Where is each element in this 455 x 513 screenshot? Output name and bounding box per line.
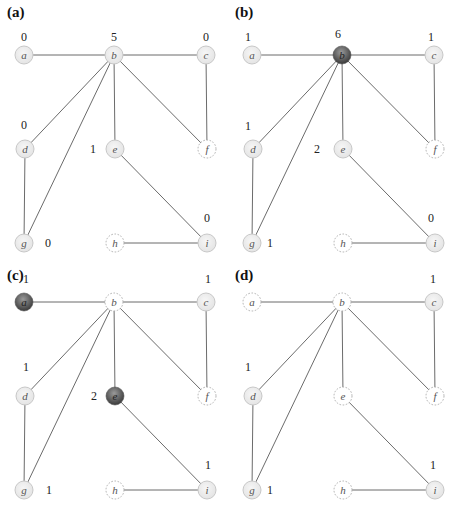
- count-e: 1: [90, 143, 96, 155]
- edge-e-i: [343, 149, 435, 243]
- edge-b-d: [253, 55, 342, 149]
- edge-b-f: [342, 55, 435, 149]
- count-i: 1: [205, 459, 211, 471]
- svg-text:e: e: [113, 390, 118, 402]
- edge-d-g: [24, 149, 25, 243]
- svg-text:d: d: [250, 390, 256, 402]
- count-d: 1: [245, 120, 251, 132]
- edge-b-f: [114, 302, 207, 396]
- svg-text:b: b: [339, 296, 345, 308]
- count-e: 2: [314, 143, 320, 155]
- count-g: 1: [267, 484, 273, 496]
- count-e: 2: [91, 390, 97, 402]
- node-g: g: [15, 481, 33, 499]
- svg-text:b: b: [339, 49, 345, 61]
- count-c: 1: [428, 31, 434, 43]
- svg-text:i: i: [433, 484, 436, 496]
- edge-e-i: [343, 396, 435, 490]
- count-i: 0: [204, 212, 210, 224]
- count-c: 0: [203, 31, 209, 43]
- node-e: e: [106, 140, 124, 158]
- svg-text:c: c: [432, 49, 437, 61]
- node-h: h: [106, 481, 124, 499]
- count-a: 0: [21, 31, 27, 43]
- graph-c: abcdefghi: [0, 247, 228, 503]
- node-c: c: [425, 46, 443, 64]
- node-f: f: [426, 387, 444, 405]
- count-g: 1: [46, 484, 52, 496]
- edge-b-g: [252, 55, 342, 243]
- edge-b-e: [342, 55, 343, 149]
- edge-b-g: [24, 302, 114, 490]
- edge-d-g: [252, 149, 253, 243]
- edge-b-d: [25, 55, 114, 149]
- node-b: b: [105, 46, 123, 64]
- svg-text:a: a: [249, 296, 255, 308]
- node-f: f: [198, 140, 216, 158]
- node-d: d: [16, 387, 34, 405]
- edge-c-f: [434, 55, 435, 149]
- node-c: c: [425, 293, 443, 311]
- graph-b: abcdefghi: [228, 0, 455, 256]
- node-a: a: [243, 46, 261, 64]
- count-c: 1: [430, 273, 436, 285]
- svg-text:g: g: [249, 484, 255, 496]
- node-d: d: [244, 140, 262, 158]
- node-d: d: [244, 387, 262, 405]
- edge-d-g: [24, 396, 25, 490]
- count-d: 1: [245, 361, 251, 373]
- count-a: 1: [23, 273, 29, 285]
- edge-b-g: [252, 302, 342, 490]
- edge-b-e: [114, 302, 115, 396]
- edge-b-d: [25, 302, 114, 396]
- svg-text:a: a: [21, 296, 27, 308]
- svg-text:h: h: [340, 484, 346, 496]
- svg-text:a: a: [21, 49, 27, 61]
- node-f: f: [426, 140, 444, 158]
- count-b: 6: [335, 28, 341, 40]
- node-a: a: [15, 46, 33, 64]
- count-i: 0: [428, 212, 434, 224]
- svg-text:e: e: [341, 390, 346, 402]
- svg-text:a: a: [249, 49, 255, 61]
- svg-text:d: d: [22, 390, 28, 402]
- node-i: i: [426, 481, 444, 499]
- svg-text:b: b: [111, 296, 117, 308]
- count-d: 1: [23, 361, 29, 373]
- svg-text:h: h: [112, 484, 118, 496]
- edge-b-e: [342, 302, 343, 396]
- edge-e-i: [115, 149, 207, 243]
- node-e: e: [334, 387, 352, 405]
- edge-b-d: [253, 302, 342, 396]
- edge-b-g: [24, 55, 114, 243]
- node-a: a: [15, 293, 33, 311]
- svg-text:c: c: [204, 49, 209, 61]
- svg-text:e: e: [113, 143, 118, 155]
- svg-text:c: c: [204, 296, 209, 308]
- node-b: b: [333, 46, 351, 64]
- count-b: 5: [111, 31, 117, 43]
- svg-text:g: g: [21, 484, 27, 496]
- edge-c-f: [206, 55, 207, 149]
- node-a: a: [243, 293, 261, 311]
- count-d: 0: [21, 119, 27, 131]
- panel-a: (a) abcdefghi 0500100: [0, 0, 228, 256]
- edge-b-e: [114, 55, 115, 149]
- svg-text:d: d: [22, 143, 28, 155]
- node-e: e: [334, 140, 352, 158]
- count-i: 1: [430, 459, 436, 471]
- node-h: h: [334, 481, 352, 499]
- panel-d: (d) abcdefghi 1111: [228, 247, 455, 503]
- graph-d: abcdefghi: [228, 247, 455, 503]
- node-i: i: [198, 481, 216, 499]
- node-b: b: [105, 293, 123, 311]
- edge-b-f: [342, 302, 435, 396]
- node-g: g: [243, 481, 261, 499]
- svg-text:c: c: [432, 296, 437, 308]
- node-d: d: [16, 140, 34, 158]
- node-c: c: [197, 293, 215, 311]
- node-b: b: [333, 293, 351, 311]
- svg-text:e: e: [341, 143, 346, 155]
- node-f: f: [198, 387, 216, 405]
- panel-c: (c) abcdefghi 111211: [0, 247, 228, 503]
